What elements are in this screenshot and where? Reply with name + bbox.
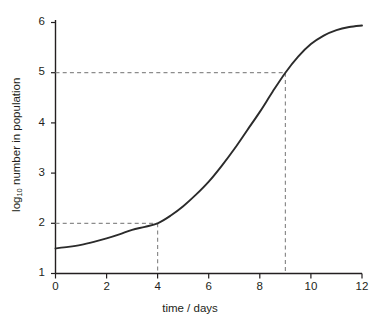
growth-curve-figure: 6 5 4 3 2 1 0 2 4 6 8 10 12 time / days …: [0, 0, 380, 323]
y-tick-label-2: 2: [27, 217, 45, 229]
y-axis-title-prefix: log: [10, 197, 22, 212]
y-axis-title-subscript: 10: [15, 188, 24, 196]
y-tick-label-3: 3: [27, 167, 45, 179]
y-tick-label-4: 4: [27, 117, 45, 129]
y-axis-title-suffix: number in population: [10, 78, 22, 189]
y-tick-label-5: 5: [27, 66, 45, 78]
x-tick-marks: [56, 274, 363, 279]
x-tick-label-8: 8: [250, 281, 270, 293]
x-tick-label-6: 6: [199, 281, 219, 293]
y-tick-label-6: 6: [27, 16, 45, 28]
y-axis-title-container: log10 number in population: [5, 0, 29, 290]
x-tick-label-4: 4: [148, 281, 168, 293]
x-axis-title: time / days: [0, 302, 380, 314]
x-tick-label-0: 0: [46, 281, 66, 293]
x-tick-label-2: 2: [97, 281, 117, 293]
x-tick-label-10: 10: [301, 281, 321, 293]
chart-plot-area: [0, 0, 380, 323]
growth-curve-line: [56, 26, 363, 249]
y-tick-label-1: 1: [27, 267, 45, 279]
x-tick-label-12: 12: [352, 281, 372, 293]
y-axis-title: log10 number in population: [11, 78, 23, 212]
